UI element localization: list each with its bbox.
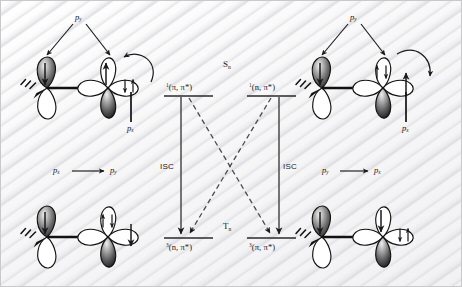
state-label-t-pipi: 3(π, π*)	[249, 243, 275, 252]
py-label-top-right: py	[350, 13, 357, 22]
manifold-label-singlet: Sn	[223, 60, 231, 69]
isc-label-right: ISC	[283, 163, 297, 171]
isc-label-left: ISC	[160, 163, 174, 171]
py-label-top-left: py	[75, 13, 82, 22]
left-transition-to-label: py	[110, 166, 117, 175]
energy-level-diagram	[0, 0, 462, 287]
left-transition-from-label: px	[53, 166, 60, 175]
right-transition-from-label: py	[322, 166, 329, 175]
state-label-t-npi: 3(n, π*)	[166, 243, 192, 252]
manifold-label-triplet: Tn	[223, 222, 231, 231]
right-transition-to-label: px	[374, 166, 381, 175]
crossing-arrow-right-to-left	[190, 98, 271, 233]
state-label-s-npi: 1(n, π*)	[249, 83, 275, 92]
px-label-top-left: px	[127, 124, 134, 133]
crossing-arrow-left-to-right	[189, 98, 270, 233]
state-label-s-pipi: 1(π, π*)	[166, 83, 192, 92]
px-label-top-right: px	[402, 124, 409, 133]
figure-canvas: Sn Tn 1(π, π*) 1(n, π*) 3(n, π*) 3(π, π*…	[0, 0, 462, 287]
